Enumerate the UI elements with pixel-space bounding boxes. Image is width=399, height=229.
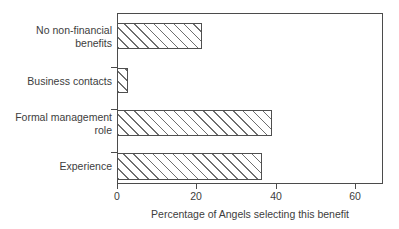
category-label: Formal management role	[15, 111, 112, 136]
bar	[117, 110, 272, 136]
x-axis-tick	[355, 184, 356, 189]
bar-chart: No non-financial benefitsBusiness contac…	[0, 0, 399, 229]
x-axis-tick-label: 60	[335, 190, 375, 202]
category-tick	[111, 67, 117, 68]
bars-layer	[117, 13, 383, 184]
category-label: No non-financial benefits	[36, 24, 112, 49]
bar	[117, 68, 128, 93]
category-label: Business contacts	[27, 75, 112, 88]
category-tick	[111, 152, 117, 153]
x-axis-tick	[196, 184, 197, 189]
category-label: Experience	[59, 160, 112, 173]
category-tick	[111, 109, 117, 110]
x-axis-tick	[117, 184, 118, 189]
x-axis-title: Percentage of Angels selecting this bene…	[117, 208, 383, 220]
x-axis-tick-label: 40	[256, 190, 296, 202]
x-axis-tick-label: 0	[97, 190, 137, 202]
bar	[117, 23, 202, 49]
x-axis-tick	[276, 184, 277, 189]
x-axis-tick-label: 20	[176, 190, 216, 202]
bar	[117, 153, 262, 180]
